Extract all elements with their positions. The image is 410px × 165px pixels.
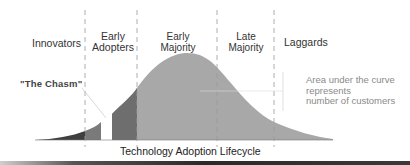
chasm-pointer-line	[82, 88, 106, 118]
innovators-area	[35, 131, 85, 140]
annotation-line-1: Area under the curve	[306, 75, 395, 86]
chasm-label: "The Chasm"	[20, 78, 82, 89]
early-adopters-post-chasm-area	[112, 88, 137, 140]
label-innovators: Innovators	[32, 37, 81, 49]
label-early-adopters-line2: Adopters	[91, 41, 135, 53]
label-late-majority-line2: Majority	[222, 42, 270, 54]
annotation-line-3: number of customers	[306, 96, 395, 107]
label-early-majority-line2: Majority	[156, 42, 200, 54]
early-adopters-pre-chasm-area	[85, 122, 101, 140]
label-laggards: Laggards	[284, 36, 328, 48]
diagram-caption: Technology Adoption Lifecycle	[120, 145, 261, 157]
majority-curve-area	[112, 53, 333, 140]
bottom-border-bar	[0, 161, 410, 165]
